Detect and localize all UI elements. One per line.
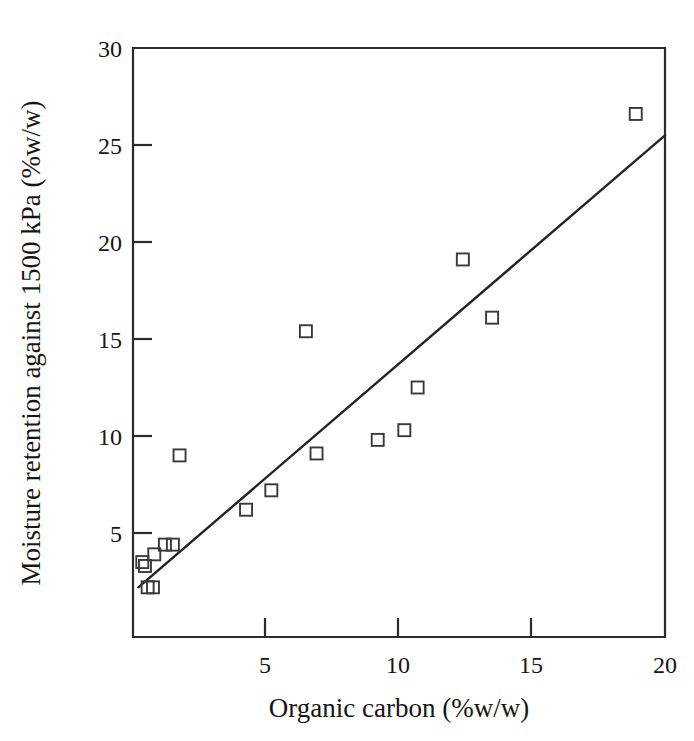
data-point-marker — [300, 325, 312, 337]
data-point-marker — [240, 504, 252, 516]
y-tick-label: 30 — [98, 36, 122, 62]
x-tick-label: 5 — [259, 652, 271, 678]
x-tick-label: 20 — [653, 652, 677, 678]
data-point-marker — [265, 484, 277, 496]
trend-line — [138, 135, 665, 587]
y-tick-label: 15 — [98, 327, 122, 353]
data-point-marker — [412, 382, 424, 394]
x-axis-title: Organic carbon (%w/w) — [269, 693, 529, 723]
data-point-marker — [457, 253, 469, 265]
x-axis-tick-labels: 5 10 15 20 — [259, 652, 677, 678]
data-point-marker — [630, 108, 642, 120]
x-tick-label: 10 — [386, 652, 410, 678]
data-point-marker — [311, 447, 323, 459]
data-point-marker — [174, 449, 186, 461]
x-tick-label: 15 — [519, 652, 543, 678]
data-point-marker — [398, 424, 410, 436]
data-point-marker — [372, 434, 384, 446]
y-tick-label: 20 — [98, 230, 122, 256]
y-axis-ticks — [133, 145, 152, 533]
data-point-marker — [486, 312, 498, 324]
y-tick-label: 10 — [98, 424, 122, 450]
y-tick-label: 25 — [98, 133, 122, 159]
y-axis-tick-labels: 30 25 20 15 10 5 — [98, 36, 122, 547]
y-axis-title: Moisture retention against 1500 kPa (%w/… — [16, 100, 46, 585]
data-point-group — [136, 108, 641, 593]
y-tick-label: 5 — [110, 521, 122, 547]
plot-frame — [133, 48, 665, 637]
x-axis-ticks — [265, 618, 531, 637]
chart-canvas: 30 25 20 15 10 5 5 10 15 20 Organic carb… — [0, 0, 694, 741]
data-point-marker — [167, 539, 179, 551]
scatter-plot-figure: 30 25 20 15 10 5 5 10 15 20 Organic carb… — [0, 0, 694, 741]
